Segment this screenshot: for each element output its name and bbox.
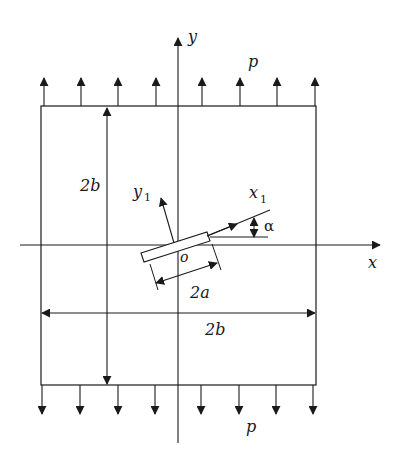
- local-y1-label: y 1: [132, 182, 151, 204]
- crack-length-label: 2a: [189, 283, 210, 302]
- crack-ext-line-right: [212, 244, 221, 270]
- local-x1-arrow: [207, 224, 237, 236]
- height-label: 2b: [79, 176, 100, 195]
- top-load-arrows: [44, 78, 315, 106]
- width-label: 2b: [204, 320, 225, 339]
- svg-text:x: x: [249, 183, 258, 202]
- top-load-label: p: [248, 52, 258, 71]
- crack-length-dimension: [156, 263, 217, 283]
- svg-text:1: 1: [260, 193, 267, 206]
- crack-ext-line-left: [150, 264, 158, 290]
- y-axis-label: y: [187, 27, 198, 46]
- local-x1-label: x 1: [249, 183, 267, 206]
- angle-label: α: [264, 217, 274, 235]
- bottom-load-label: p: [246, 417, 256, 436]
- svg-text:1: 1: [144, 191, 151, 204]
- x-axis-label: x: [368, 253, 377, 272]
- plate-crack-diagram: y x p p 2b 2b 2a o x 1 y 1 α: [0, 0, 400, 458]
- svg-text:y: y: [132, 182, 143, 201]
- local-y1-axis: [161, 198, 174, 243]
- origin-label: o: [180, 249, 188, 265]
- inclined-crack: [141, 232, 210, 262]
